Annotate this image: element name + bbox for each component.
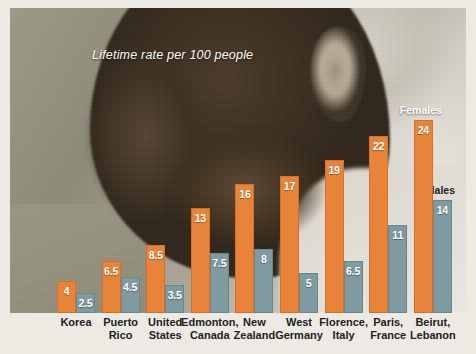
bar-males: 8 xyxy=(254,249,273,313)
bar-value-label: 6.5 xyxy=(345,265,362,277)
bar-males: 4.5 xyxy=(121,277,140,313)
bar-group: 137.5 xyxy=(191,8,229,313)
bar-females: 16 xyxy=(235,184,254,313)
chart-figure: Lifetime rate per 100 people Females Mal… xyxy=(0,0,476,354)
bar-value-label: 24 xyxy=(415,124,432,136)
bar-group: 8.53.5 xyxy=(146,8,184,313)
bar-plot-area: Females Males 42.56.54.58.53.5137.516817… xyxy=(10,8,466,313)
bar-females: 13 xyxy=(191,208,210,313)
bar-males: 3.5 xyxy=(165,285,184,313)
x-axis-label-beirut-lebanon: Beirut,Lebanon xyxy=(396,316,470,342)
bar-males: 11 xyxy=(388,225,407,313)
bar-group: 2414 xyxy=(414,8,452,313)
bar-group: 2211 xyxy=(369,8,407,313)
bar-value-label: 16 xyxy=(236,188,253,200)
x-axis-labels: KoreaPuertoRicoUnitedStatesEdmonton,Cana… xyxy=(10,316,466,354)
bar-males: 2.5 xyxy=(76,293,95,313)
bar-value-label: 11 xyxy=(389,229,406,241)
bar-value-label: 5 xyxy=(300,277,317,289)
x-axis-label-line1: Beirut, xyxy=(415,316,450,328)
bar-group: 175 xyxy=(280,8,318,313)
bar-males: 14 xyxy=(433,200,452,313)
bar-value-label: 14 xyxy=(434,204,451,216)
bar-group: 196.5 xyxy=(325,8,363,313)
bar-females: 17 xyxy=(280,176,299,313)
bar-females: 6.5 xyxy=(102,261,121,313)
x-axis-label-line2: Lebanon xyxy=(396,329,470,342)
bar-value-label: 4.5 xyxy=(122,281,139,293)
bar-value-label: 7.5 xyxy=(211,257,228,269)
bar-females: 19 xyxy=(325,160,344,313)
bar-value-label: 8 xyxy=(255,253,272,265)
bar-group: 168 xyxy=(235,8,273,313)
bar-males: 5 xyxy=(299,273,318,313)
bar-females: 4 xyxy=(57,281,76,313)
bar-value-label: 2.5 xyxy=(77,297,94,309)
bar-value-label: 4 xyxy=(58,285,75,297)
bar-value-label: 6.5 xyxy=(103,265,120,277)
bar-value-label: 17 xyxy=(281,180,298,192)
bar-group: 6.54.5 xyxy=(102,8,140,313)
bar-value-label: 3.5 xyxy=(166,289,183,301)
bar-females: 22 xyxy=(369,136,388,313)
bar-value-label: 8.5 xyxy=(147,249,164,261)
bar-value-label: 22 xyxy=(370,140,387,152)
bar-group: 42.5 xyxy=(57,8,95,313)
bar-value-label: 19 xyxy=(326,164,343,176)
bar-females: 8.5 xyxy=(146,245,165,313)
bar-value-label: 13 xyxy=(192,212,209,224)
bar-females: 24 xyxy=(414,120,433,313)
bar-males: 7.5 xyxy=(210,253,229,313)
bar-males: 6.5 xyxy=(344,261,363,313)
